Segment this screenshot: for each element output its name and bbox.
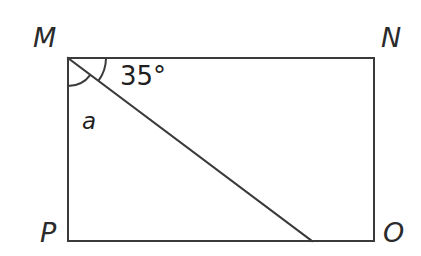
vertex-label-o: O <box>383 219 404 246</box>
angle-arc-a <box>68 75 90 86</box>
transversal-diagonal-line <box>68 58 312 241</box>
angle-variable-label-a: a <box>82 110 96 133</box>
vertex-label-m: M <box>33 24 56 51</box>
vertex-label-p: P <box>40 219 56 246</box>
geometry-diagram: M N P O 35° a <box>0 0 421 256</box>
vertex-label-n: N <box>381 24 401 51</box>
angle-measure-label-35-degrees: 35° <box>120 63 166 89</box>
angle-arc-35-degrees <box>98 58 106 81</box>
figure-canvas <box>0 0 421 256</box>
